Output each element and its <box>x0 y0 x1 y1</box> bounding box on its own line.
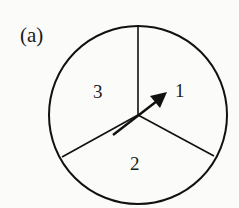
divider-right <box>138 115 214 156</box>
pointer-arrow-icon <box>113 92 167 135</box>
sector-label-3: 3 <box>93 81 103 102</box>
sector-label-1: 1 <box>175 80 185 101</box>
divider-left <box>62 115 138 157</box>
sector-label-2: 2 <box>130 153 140 174</box>
figure-label: (a) <box>20 23 43 47</box>
spinner-diagram: (a) 3 1 2 <box>0 0 239 208</box>
